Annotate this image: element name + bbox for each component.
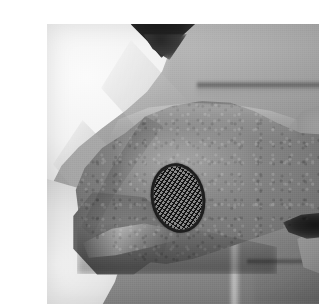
page-canvas xyxy=(0,0,319,305)
photograph xyxy=(47,24,319,304)
background-rail-upper-soft xyxy=(197,88,319,100)
